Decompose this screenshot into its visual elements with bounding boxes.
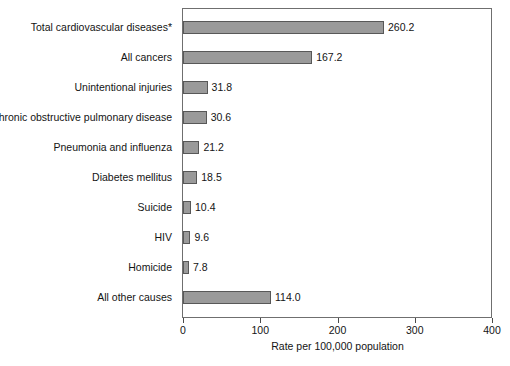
bar-category-label: Total cardiovascular diseases* bbox=[0, 12, 176, 42]
bar-chart: Total cardiovascular diseases*260.2All c… bbox=[0, 0, 510, 366]
bar-category-label: All other causes bbox=[0, 282, 176, 312]
bar-wrapper: 10.4 bbox=[183, 192, 215, 222]
bar-value-label: 18.5 bbox=[201, 171, 221, 183]
bar-wrapper: 167.2 bbox=[183, 42, 342, 72]
x-axis-tick-label: 400 bbox=[483, 324, 501, 336]
x-axis-tick bbox=[338, 318, 339, 323]
x-axis-tick-label: 300 bbox=[406, 324, 424, 336]
bar-value-label: 167.2 bbox=[316, 51, 342, 63]
bar-category-label: Suicide bbox=[0, 192, 176, 222]
bar-category-label: All cancers bbox=[0, 42, 176, 72]
bar-value-label: 9.6 bbox=[194, 231, 209, 243]
x-axis-tick bbox=[492, 318, 493, 323]
bar bbox=[183, 51, 312, 64]
x-axis-tick-label: 0 bbox=[180, 324, 186, 336]
bar-wrapper: 260.2 bbox=[183, 12, 414, 42]
bar-value-label: 260.2 bbox=[388, 21, 414, 33]
bar-category-label: Pneumonia and influenza bbox=[0, 132, 176, 162]
bar-row: Unintentional injuries31.8 bbox=[0, 72, 510, 102]
bar bbox=[183, 111, 207, 124]
x-axis-tick bbox=[415, 318, 416, 323]
bar-wrapper: 7.8 bbox=[183, 252, 208, 282]
bar-row: Suicide10.4 bbox=[0, 192, 510, 222]
bar-wrapper: 18.5 bbox=[183, 162, 222, 192]
x-axis-tick-label: 100 bbox=[251, 324, 269, 336]
bar-value-label: 31.8 bbox=[212, 81, 232, 93]
bar-wrapper: 21.2 bbox=[183, 132, 224, 162]
bar-category-label: Chronic obstructive pulmonary disease bbox=[0, 102, 176, 132]
bar-row: All other causes114.0 bbox=[0, 282, 510, 312]
bar-wrapper: 31.8 bbox=[183, 72, 232, 102]
bar bbox=[183, 171, 197, 184]
x-axis-tick-label: 200 bbox=[329, 324, 347, 336]
bar-row: All cancers167.2 bbox=[0, 42, 510, 72]
x-axis-tick bbox=[260, 318, 261, 323]
bar-wrapper: 9.6 bbox=[183, 222, 209, 252]
bar bbox=[183, 261, 189, 274]
bar bbox=[183, 201, 191, 214]
bar-wrapper: 30.6 bbox=[183, 102, 231, 132]
bar bbox=[183, 81, 208, 94]
bar-value-label: 114.0 bbox=[275, 291, 301, 303]
bar-value-label: 30.6 bbox=[211, 111, 231, 123]
bar-value-label: 10.4 bbox=[195, 201, 215, 213]
bar-row: Total cardiovascular diseases*260.2 bbox=[0, 12, 510, 42]
bar-row: Chronic obstructive pulmonary disease30.… bbox=[0, 102, 510, 132]
bar-category-label: HIV bbox=[0, 222, 176, 252]
bar-row: Pneumonia and influenza21.2 bbox=[0, 132, 510, 162]
bar bbox=[183, 291, 271, 304]
bar bbox=[183, 231, 190, 244]
bar bbox=[183, 21, 384, 34]
bar-row: Diabetes mellitus18.5 bbox=[0, 162, 510, 192]
bar-row: HIV9.6 bbox=[0, 222, 510, 252]
x-axis-title: Rate per 100,000 population bbox=[182, 340, 493, 352]
bar-category-label: Diabetes mellitus bbox=[0, 162, 176, 192]
bar-row: Homicide7.8 bbox=[0, 252, 510, 282]
bar-category-label: Unintentional injuries bbox=[0, 72, 176, 102]
bar-wrapper: 114.0 bbox=[183, 282, 301, 312]
x-axis: 0100200300400 bbox=[182, 318, 493, 319]
bar-value-label: 7.8 bbox=[193, 261, 208, 273]
x-axis-tick bbox=[183, 318, 184, 323]
bar-value-label: 21.2 bbox=[203, 141, 223, 153]
bar bbox=[183, 141, 199, 154]
bar-category-label: Homicide bbox=[0, 252, 176, 282]
